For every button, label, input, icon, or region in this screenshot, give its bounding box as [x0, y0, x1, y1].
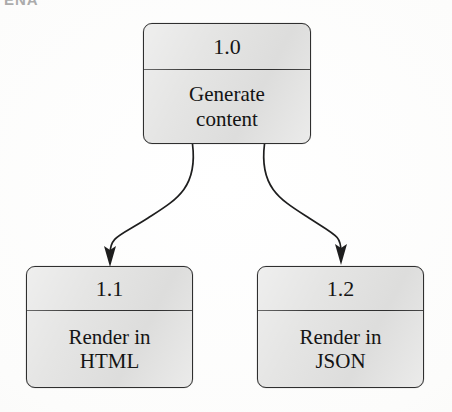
edge-1-0-to-1-2 — [264, 144, 347, 265]
edge-left-path — [110, 144, 193, 254]
process-id-1-1: 1.1 — [27, 267, 192, 311]
process-label-1-1: Render in HTML — [27, 311, 192, 387]
edge-left-arrowhead — [104, 246, 116, 267]
process-id-1-2: 1.2 — [258, 267, 423, 311]
process-box-1-1[interactable]: 1.1 Render in HTML — [26, 266, 193, 388]
page-canvas: ENA 1.0 Generate content 1.1 Render in H… — [0, 0, 452, 412]
edge-right-arrowhead — [335, 244, 347, 265]
edge-right-path — [264, 144, 341, 252]
edge-1-0-to-1-1 — [104, 144, 193, 267]
process-id-1-0: 1.0 — [144, 24, 310, 70]
process-box-1-0[interactable]: 1.0 Generate content — [143, 23, 311, 144]
clipped-running-head: ENA — [4, 0, 39, 8]
process-label-1-2: Render in JSON — [258, 311, 423, 387]
process-label-1-0: Generate content — [144, 70, 310, 143]
process-box-1-2[interactable]: 1.2 Render in JSON — [257, 266, 424, 388]
